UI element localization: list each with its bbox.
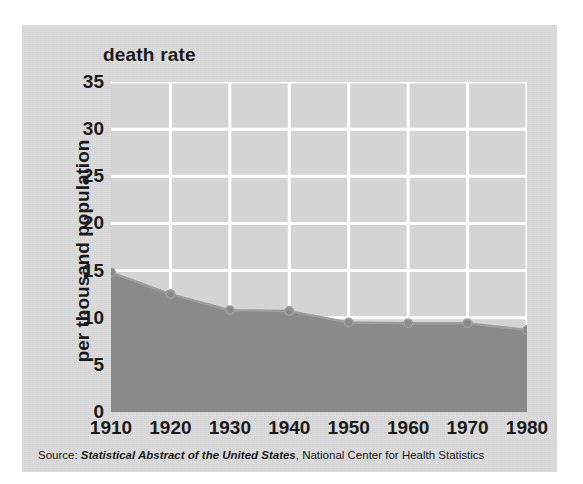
x-tick-label: 1920	[149, 418, 191, 437]
x-tick-label: 1970	[446, 418, 488, 437]
x-tick-label: 1930	[209, 418, 251, 437]
source-note: Source: Statistical Abstract of the Unit…	[38, 449, 484, 461]
source-publication: Statistical Abstract of the United State…	[81, 449, 296, 461]
x-tick-label: 1910	[90, 418, 132, 437]
x-tick-label: 1980	[506, 418, 548, 437]
x-tick-label: 1950	[328, 418, 370, 437]
source-prefix: Source:	[38, 449, 78, 461]
chart-figure: death rate per thousand population 05101…	[0, 0, 583, 484]
x-tick-label: 1960	[387, 418, 429, 437]
x-axis-ticks: 19101920193019401950196019701980	[0, 0, 583, 484]
source-suffix: , National Center for Health Statistics	[296, 449, 485, 461]
x-tick-label: 1940	[268, 418, 310, 437]
